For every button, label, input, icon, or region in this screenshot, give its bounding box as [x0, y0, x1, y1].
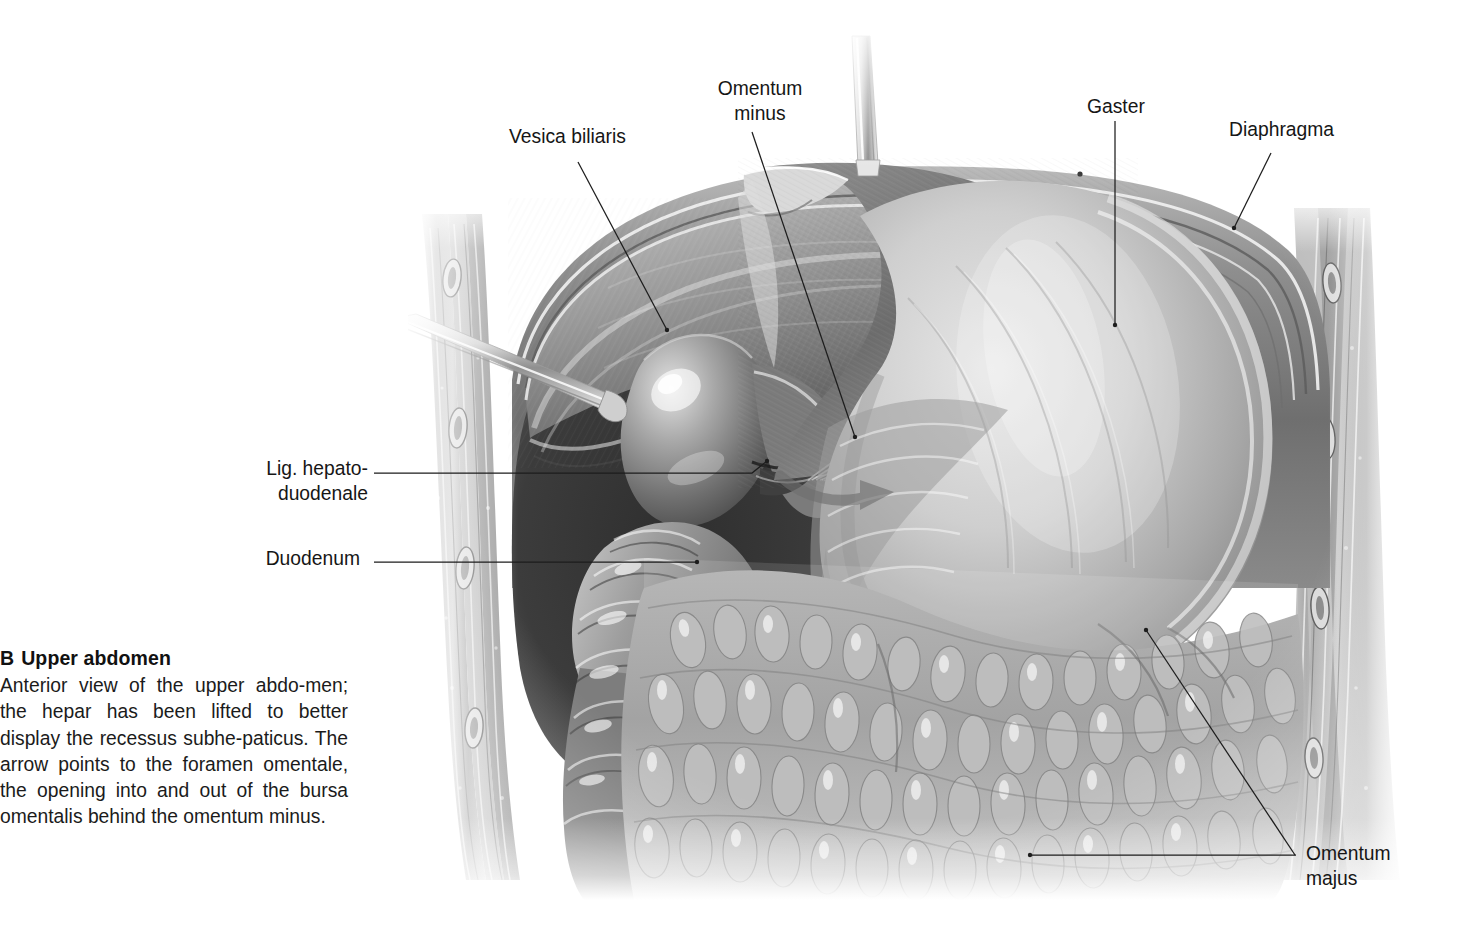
figure-letter: B: [0, 647, 14, 669]
label-omentum-majus: Omentum majus: [1306, 841, 1456, 891]
label-gaster: Gaster: [1087, 94, 1145, 119]
label-vesica-biliaris: Vesica biliaris: [509, 124, 626, 149]
label-omentum-minus: Omentum minus: [660, 76, 860, 126]
figure-caption-block: BUpper abdomen Anterior view of the uppe…: [0, 645, 348, 831]
label-lig-hepatoduodenale: Lig. hepato- duodenale: [88, 456, 368, 506]
figure-title-text: Upper abdomen: [21, 647, 171, 669]
figure-caption-text: Anterior view of the upper abdo-men; the…: [0, 673, 348, 831]
label-duodenum: Duodenum: [88, 546, 360, 571]
label-diaphragma: Diaphragma: [1229, 117, 1334, 142]
anatomical-illustration: [408, 28, 1408, 900]
figure-title: BUpper abdomen: [0, 645, 348, 671]
